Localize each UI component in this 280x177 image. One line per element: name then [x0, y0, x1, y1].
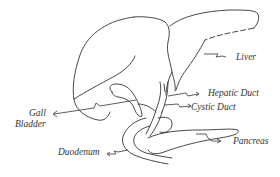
liver-left-lobe-lower	[74, 56, 135, 99]
liver-leader-line	[204, 54, 226, 57]
gall-bladder	[110, 84, 142, 117]
liver-central-division	[134, 17, 172, 95]
hepatic-duct-label: Hepatic Duct	[207, 88, 259, 98]
hepatic-duct-leader-line	[168, 92, 199, 96]
duodenum-label: Duodenum	[57, 147, 100, 157]
liver-right-lobe	[170, 10, 259, 28]
pancreas-label: Pancreas	[232, 136, 269, 146]
liver-right-lobe-lower	[176, 40, 205, 90]
duodenum-leader-line	[107, 150, 128, 156]
hepatic-duct	[156, 82, 168, 112]
digestive-organs-diagram: Liver Hepatic Duct Cystic Duct Gall Blad…	[0, 0, 280, 177]
gall-bladder-label-line2: Bladder	[15, 119, 46, 129]
cystic-duct-label: Cystic Duct	[191, 102, 236, 112]
liver-right-lobe-edge	[205, 28, 254, 40]
duodenal-loop	[158, 117, 172, 132]
liver-right-lobe-inner	[172, 72, 175, 91]
gall-bladder-label-line1: Gall	[29, 108, 46, 118]
gall-bladder-leader-line	[53, 100, 136, 117]
liver-label: Liver	[235, 52, 256, 62]
cystic-duct-leader-line	[164, 104, 191, 108]
duodenum	[122, 118, 172, 164]
